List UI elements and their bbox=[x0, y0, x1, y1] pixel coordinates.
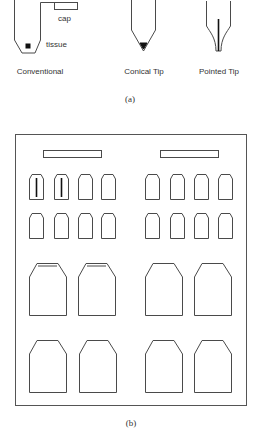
pointed-tip-label: Pointed Tip bbox=[199, 67, 239, 76]
cap-rect bbox=[55, 3, 78, 10]
small-cavities-row-2 bbox=[30, 214, 233, 239]
conical-tip-label: Conical Tip bbox=[124, 67, 164, 76]
tissue-label: tissue bbox=[46, 40, 67, 49]
label-slot-right bbox=[161, 151, 219, 158]
panel-b-caption: (b) bbox=[126, 418, 137, 428]
embedding-molds-diagram bbox=[0, 0, 259, 439]
conventional-label: Conventional bbox=[17, 67, 64, 76]
large-cavities-row-1 bbox=[30, 264, 232, 316]
label-slot-left bbox=[44, 151, 102, 158]
large-cavities-row-2 bbox=[30, 341, 232, 393]
pointed-tip-capsule bbox=[207, 1, 231, 51]
cap-label: cap bbox=[58, 14, 71, 23]
conical-tip-capsule bbox=[132, 0, 156, 51]
mold-frame bbox=[16, 135, 247, 406]
panel-a-caption: (a) bbox=[125, 94, 135, 104]
small-cavities-row-1 bbox=[30, 175, 233, 200]
tissue-block-icon bbox=[26, 44, 30, 48]
